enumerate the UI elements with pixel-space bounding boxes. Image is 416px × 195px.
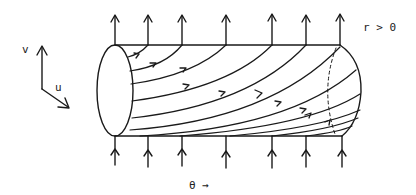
axes-icon	[37, 46, 69, 108]
top-normal-arrows	[111, 14, 344, 45]
flow-arrowheads	[134, 53, 330, 125]
bottom-normal-arrows	[111, 136, 346, 168]
r-condition-label: r > 0	[363, 22, 396, 33]
theta-direction-label: θ →	[189, 180, 209, 191]
u-axis-label: u	[55, 82, 62, 93]
cylinder-flow-diagram	[0, 0, 416, 195]
v-axis-label: v	[22, 44, 29, 55]
